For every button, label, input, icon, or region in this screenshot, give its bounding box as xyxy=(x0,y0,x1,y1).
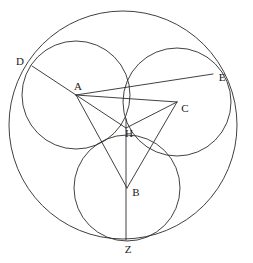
geometry-figure: ABCDEHZ xyxy=(0,0,253,263)
segment-A-E xyxy=(76,74,213,95)
segments-group xyxy=(32,66,213,240)
segment-A-H xyxy=(76,95,126,128)
point-label-d: D xyxy=(16,56,24,67)
segment-A-C xyxy=(76,95,177,102)
point-label-a: A xyxy=(74,81,82,92)
point-label-b: B xyxy=(132,187,139,198)
segment-A-B xyxy=(76,95,127,188)
outer-circle xyxy=(9,11,237,239)
point-label-z: Z xyxy=(125,244,132,255)
segment-D-A xyxy=(32,66,76,95)
point-label-h: H xyxy=(125,128,133,139)
point-label-c: C xyxy=(181,103,188,114)
point-label-e: E xyxy=(219,72,226,83)
